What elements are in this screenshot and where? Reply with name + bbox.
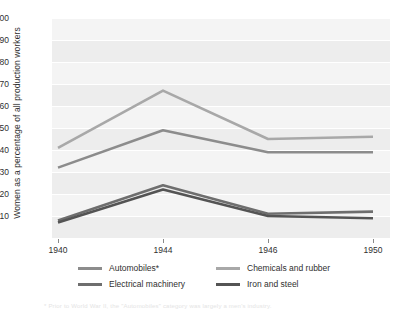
chart-footnote: * Prior to World War II, the "Automobile…	[44, 303, 272, 309]
legend-label-automobiles: Automobiles*	[109, 262, 159, 275]
chart-figure: Women as a percentage of all production …	[0, 0, 403, 314]
x-tick-mark	[373, 239, 374, 243]
legend-swatch-chemicals-and-rubber	[216, 267, 240, 270]
series-line-automobiles	[58, 130, 373, 167]
chart-legend: Automobiles* Chemicals and rubber Electr…	[0, 262, 403, 292]
x-tick-mark	[268, 239, 269, 243]
legend-label-iron-and-steel: Iron and steel	[247, 278, 299, 291]
legend-swatch-electrical-machinery	[78, 283, 102, 286]
legend-label-chemicals-and-rubber: Chemicals and rubber	[247, 262, 330, 275]
x-tick-label: 1950	[348, 245, 398, 255]
x-tick-mark	[163, 239, 164, 243]
legend-label-electrical-machinery: Electrical machinery	[109, 278, 185, 291]
x-tick-label: 1944	[138, 245, 188, 255]
series-line-chemicals-and-rubber	[58, 91, 373, 148]
x-tick-label: 1946	[243, 245, 293, 255]
x-tick-label: 1940	[33, 245, 83, 255]
legend-swatch-iron-and-steel	[216, 283, 240, 286]
x-tick-mark	[58, 239, 59, 243]
series-line-iron-and-steel	[58, 190, 373, 223]
legend-swatch-automobiles	[78, 267, 102, 270]
